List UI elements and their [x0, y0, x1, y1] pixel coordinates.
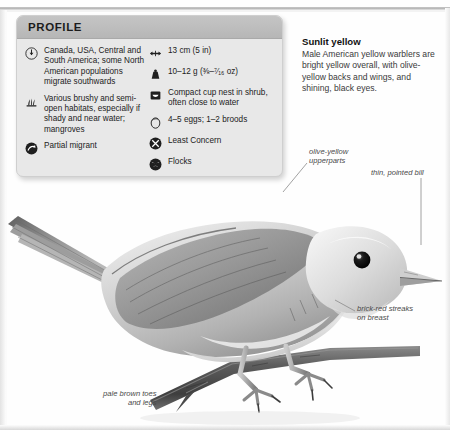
profile-body: Canada, USA, Central and South America; … — [17, 39, 282, 177]
profile-entry-migration: Partial migrant — [23, 141, 147, 156]
toes — [244, 374, 324, 404]
profile-panel: PROFILE Canada, USA, Central and South A… — [16, 15, 283, 177]
profile-entry-social: Flocks — [147, 157, 276, 172]
profile-entry-range: Canada, USA, Central and South America; … — [23, 46, 147, 88]
profile-entry-length: 13 cm (5 in) — [147, 46, 276, 61]
tail — [8, 216, 116, 288]
description-heading: Sunlit yellow — [302, 36, 442, 47]
profile-entry-nest-text: Compact cup nest in shrub, often close t… — [168, 88, 276, 109]
migration-arrow-icon — [23, 142, 40, 156]
profile-header: PROFILE — [17, 16, 282, 39]
social-flocks-icon — [147, 158, 164, 172]
description-block: Sunlit yellow Male American yellow warbl… — [302, 36, 442, 94]
profile-entry-weight: 10–12 g (⅜–⁷⁄₁₆ oz) — [147, 67, 276, 82]
profile-title: PROFILE — [28, 21, 82, 33]
eye — [354, 252, 371, 269]
profile-entry-range-text: Canada, USA, Central and South America; … — [44, 46, 147, 88]
annotation-toes: pale brown toes and legs — [103, 389, 157, 407]
profile-right-column: 13 cm (5 in) 10–12 g (⅜–⁷⁄₁₆ oz) — [147, 46, 276, 177]
profile-entry-habitat-text: Various brushy and semi-open habitats, e… — [44, 94, 147, 136]
annotation-bill: thin, pointed bill — [371, 168, 424, 177]
profile-entry-eggs: 4–5 eggs; 1–2 broods — [147, 115, 276, 130]
annotation-upperparts: olive-yellow upperparts — [309, 147, 348, 165]
description-body: Male American yellow warblers are bright… — [302, 49, 442, 94]
weight-icon — [147, 68, 164, 82]
page-top-rule-highlight — [0, 10, 450, 12]
warbler-illustration — [0, 150, 450, 430]
profile-left-column: Canada, USA, Central and South America; … — [23, 46, 147, 177]
profile-entry-length-text: 13 cm (5 in) — [168, 46, 211, 61]
profile-entry-conservation: Least Concern — [147, 136, 276, 151]
profile-entry-weight-text: 10–12 g (⅜–⁷⁄₁₆ oz) — [168, 67, 238, 82]
range-globe-icon — [23, 47, 40, 61]
bill — [400, 268, 442, 286]
egg-icon — [147, 116, 164, 130]
profile-entry-nest: Compact cup nest in shrub, often close t… — [147, 88, 276, 109]
branch — [150, 346, 420, 412]
profile-entry-social-text: Flocks — [168, 157, 192, 172]
profile-entry-migration-text: Partial migrant — [44, 141, 97, 156]
conservation-status-icon — [147, 137, 164, 151]
profile-entry-conservation-text: Least Concern — [168, 136, 221, 151]
length-arrows-icon — [147, 47, 164, 61]
nest-icon — [147, 89, 164, 103]
annotation-breast: brick-red streaks on breast — [357, 304, 413, 322]
profile-entry-habitat: Various brushy and semi-open habitats, e… — [23, 94, 147, 136]
habitat-grass-icon — [23, 95, 40, 109]
profile-entry-eggs-text: 4–5 eggs; 1–2 broods — [168, 115, 247, 130]
field-guide-page: PROFILE Canada, USA, Central and South A… — [0, 0, 450, 430]
head — [306, 226, 407, 313]
